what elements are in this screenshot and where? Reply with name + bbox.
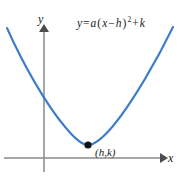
equation-h-var: h — [116, 17, 122, 29]
equation-plus: + — [131, 17, 140, 29]
vertex-label: (h,k) — [95, 147, 115, 158]
x-axis-label: x — [168, 152, 173, 164]
parabola-figure: y=a(x−h)2+k y x (h,k) — [0, 0, 180, 176]
parabola-curve — [7, 27, 173, 145]
equation-k-var: k — [140, 17, 145, 29]
equation-minus: − — [107, 17, 116, 29]
vertex-dot — [84, 141, 91, 148]
x-axis-arrowhead — [160, 153, 168, 163]
equation-annotation: y=a(x−h)2+k — [77, 18, 145, 30]
equation-equals: = — [82, 17, 91, 29]
y-axis-label: y — [38, 13, 43, 25]
